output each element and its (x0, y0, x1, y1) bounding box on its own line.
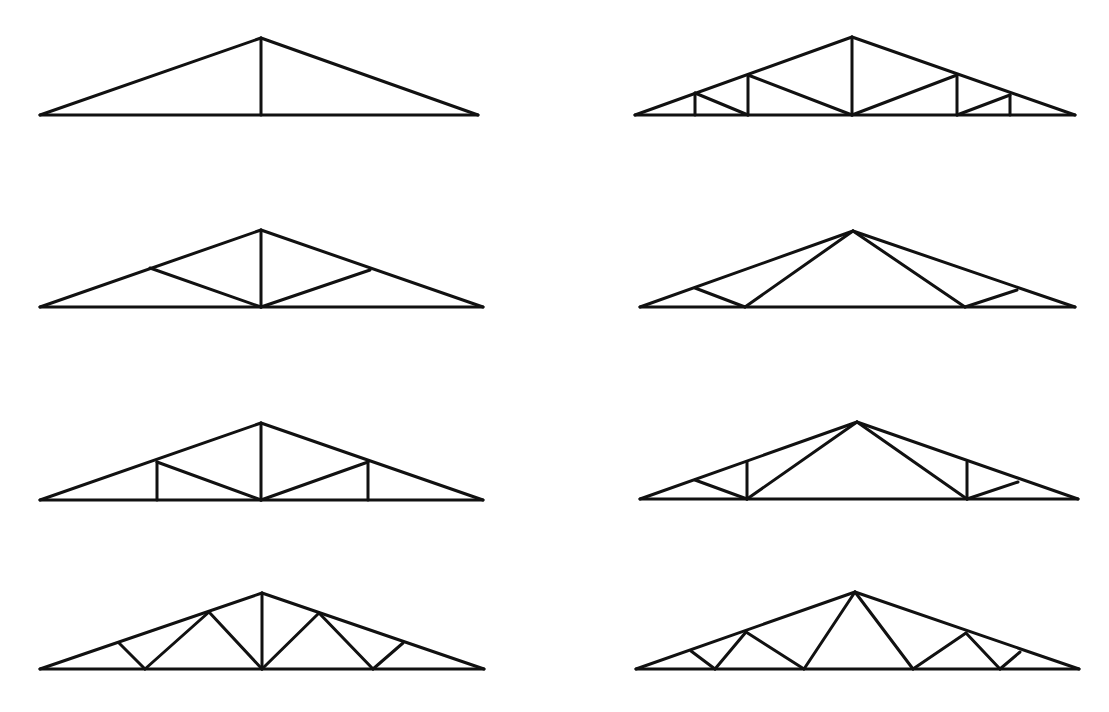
truss-member (150, 268, 261, 307)
truss-member (695, 480, 747, 499)
truss-member (261, 38, 478, 115)
truss-member (857, 422, 967, 499)
truss-member (746, 632, 804, 669)
truss-member (262, 613, 319, 669)
truss-member (747, 422, 857, 499)
truss-fink-vertical (640, 422, 1078, 499)
truss-king-post (40, 38, 478, 115)
truss-member (373, 643, 403, 669)
truss-double-fink (636, 592, 1079, 669)
truss-member (855, 592, 1079, 669)
truss-member (853, 231, 1075, 307)
truss-member (967, 482, 1018, 499)
truss-member (640, 231, 853, 307)
truss-member (261, 462, 368, 500)
truss-howe-warren (40, 593, 484, 669)
truss-member (804, 592, 855, 669)
truss-member (745, 231, 853, 307)
truss-member (691, 651, 715, 669)
truss-member (748, 75, 852, 115)
truss-member (636, 592, 855, 669)
truss-member (1000, 652, 1020, 669)
truss-member (262, 593, 484, 669)
truss-member (119, 643, 145, 669)
truss-member (965, 290, 1017, 307)
truss-member (40, 38, 261, 115)
truss-member (261, 270, 370, 307)
truss-member (957, 95, 1010, 115)
truss-member (209, 612, 262, 669)
truss-fink-king (40, 230, 483, 307)
truss-fink (640, 231, 1075, 307)
truss-member (157, 462, 261, 500)
truss-member (695, 93, 748, 115)
truss-queen-post (40, 423, 483, 500)
truss-member (853, 231, 965, 307)
truss-member (695, 288, 745, 307)
truss-member (852, 75, 957, 115)
truss-multi-panel-vertical (635, 37, 1075, 115)
truss-member (966, 633, 1000, 669)
truss-member (913, 633, 966, 669)
truss-diagram (0, 0, 1109, 712)
truss-member (715, 632, 746, 669)
